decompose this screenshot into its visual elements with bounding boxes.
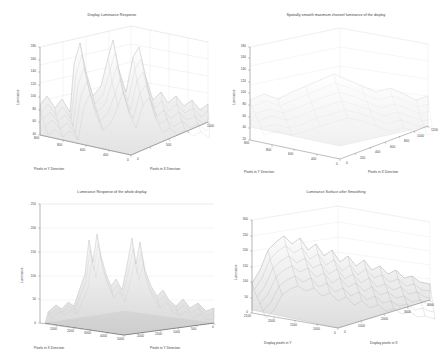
y-tick: 400 — [103, 153, 108, 157]
z-tick: 250 — [22, 202, 36, 206]
panel-luminance-response-whole-display: Luminance Response of the whole display — [0, 178, 224, 356]
x-tick: 1000 — [417, 134, 424, 138]
z-tick: 200 — [22, 226, 36, 230]
y-tick: 0 — [212, 325, 214, 329]
x-axis-label: Display pixels in X — [370, 341, 398, 345]
y-tick: 1500 — [155, 332, 162, 336]
y-tick: 0 — [334, 331, 336, 335]
x-tick: 4000 — [427, 303, 434, 307]
y-tick: 800 — [244, 141, 249, 145]
y-tick: 2100 — [244, 314, 251, 318]
y-tick: 600 — [80, 148, 85, 152]
z-tick: 250 — [234, 233, 248, 237]
x-tick: 4000 — [100, 334, 107, 338]
y-tick: 2000 — [137, 334, 144, 338]
surface-plot-2 — [224, 0, 448, 178]
y-axis-label: Pixels in Y Direction — [34, 167, 64, 171]
x-tick: 0 — [137, 157, 139, 161]
x-tick: 800 — [404, 139, 409, 143]
y-tick: 1000 — [313, 327, 320, 331]
panel-spatially-smooth-max-channel: Spatially smooth maximum channel luminan… — [224, 0, 448, 178]
z-tick: 80 — [22, 107, 36, 111]
x-tick: 2000 — [67, 329, 74, 333]
x-tick: 1200 — [431, 128, 438, 132]
x-axis-label: Pixels in X Direction — [34, 346, 64, 350]
y-tick: 400 — [311, 157, 316, 161]
z-tick: 60 — [232, 114, 246, 118]
z-tick: 0 — [22, 321, 36, 325]
z-tick: 140 — [232, 67, 246, 71]
x-tick: 3000 — [84, 331, 91, 335]
y-tick: 2000 — [268, 319, 275, 323]
x-tick: 0 — [346, 161, 348, 165]
z-tick: 180 — [232, 44, 246, 48]
y-tick: 1500 — [290, 323, 297, 327]
x-tick: 2000 — [381, 317, 388, 321]
z-tick: 150 — [234, 264, 248, 268]
z-tick: 100 — [22, 274, 36, 278]
y-axis-label: Pixels in Y Direction — [244, 170, 274, 174]
z-tick: 200 — [234, 248, 248, 252]
z-tick: 160 — [22, 57, 36, 61]
z-tick: 120 — [22, 82, 36, 86]
x-tick: 0 — [344, 330, 346, 334]
y-axis-label: Pixels in Y Direction — [150, 346, 180, 350]
y-tick: 0 — [127, 158, 129, 162]
x-tick: 5000 — [117, 337, 124, 341]
z-axis-label: Luminance — [16, 89, 20, 105]
surface-plot-1 — [0, 0, 224, 178]
z-tick: 120 — [232, 79, 246, 83]
z-tick: 50 — [22, 297, 36, 301]
panel-luminance-surface-after-smoothing: Luminance Surface after Smoothing — [224, 178, 448, 356]
x-tick: 200 — [360, 156, 365, 160]
y-tick: 800 — [266, 148, 271, 152]
x-tick: 500 — [166, 143, 171, 147]
z-tick: 140 — [22, 69, 36, 73]
x-tick: 400 — [375, 150, 380, 154]
z-tick: 160 — [232, 55, 246, 59]
z-tick: 100 — [234, 279, 248, 283]
y-tick: 800 — [34, 136, 39, 140]
x-axis-label: Pixels in X Direction — [368, 170, 398, 174]
y-tick: 1000 — [173, 330, 180, 334]
x-tick: 1000 — [207, 124, 214, 128]
x-tick: 3000 — [404, 310, 411, 314]
z-tick: 150 — [22, 250, 36, 254]
z-tick: 180 — [22, 44, 36, 48]
z-tick: 100 — [232, 90, 246, 94]
z-tick: 100 — [22, 94, 36, 98]
x-axis-label: Pixels in X Direction — [150, 167, 180, 171]
y-tick: 0 — [336, 162, 338, 166]
surface-plot-4 — [224, 178, 448, 356]
z-tick: 300 — [234, 217, 248, 221]
figure-canvas: Display Luminance Response — [0, 0, 448, 356]
x-tick: 600 — [390, 145, 395, 149]
panel-display-luminance-response: Display Luminance Response — [0, 0, 224, 178]
y-tick: 500 — [191, 327, 196, 331]
z-tick: 40 — [232, 125, 246, 129]
y-tick: 800 — [57, 143, 62, 147]
y-axis-label: Display pixels in Y — [264, 341, 291, 345]
z-tick: 80 — [232, 102, 246, 106]
z-tick: 60 — [22, 119, 36, 123]
y-tick: 600 — [288, 152, 293, 156]
x-tick: 1000 — [50, 327, 57, 331]
x-tick: 1000 — [358, 324, 365, 328]
z-tick: 50 — [234, 295, 248, 299]
